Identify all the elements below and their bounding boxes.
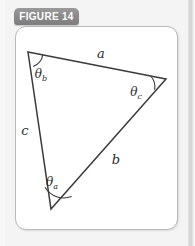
theta-subscript-a: a (53, 182, 58, 191)
side-label-b: b (112, 152, 120, 167)
side-label-a: a (97, 46, 105, 61)
angle-label-theta-a: θa (46, 175, 58, 191)
theta-subscript-c: c (137, 92, 142, 101)
angle-label-theta-c: θc (130, 85, 142, 101)
theta-subscript-b: b (42, 74, 47, 83)
angle-arc-theta-c (151, 76, 155, 90)
triangle-diagram: a b c θb θc θa (0, 0, 195, 246)
angle-arc-theta-b (33, 55, 43, 67)
angle-label-theta-b: θb (35, 67, 47, 83)
side-label-c: c (21, 123, 29, 138)
figure-panel: FIGURE 14 a b c θb θc θa (0, 0, 195, 246)
